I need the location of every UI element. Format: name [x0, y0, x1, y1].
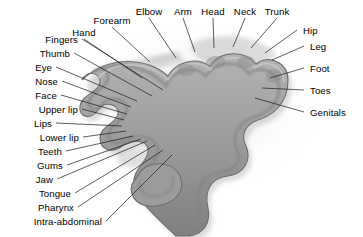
homunculus-figure: FingersThumbEyeNoseFaceUpper lipLipsLowe…: [0, 0, 363, 237]
label-jaw: Jaw: [36, 174, 53, 185]
leader-line: [106, 155, 172, 221]
label-gums: Gums: [37, 160, 63, 171]
label-arm: Arm: [174, 6, 192, 17]
leader-line: [78, 150, 163, 207]
label-hip: Hip: [303, 25, 318, 36]
leader-line: [83, 131, 126, 137]
leader-line: [265, 30, 297, 53]
leader-line: [233, 18, 245, 47]
label-lower-lip: Lower lip: [40, 132, 79, 143]
label-pharynx: Pharynx: [38, 202, 74, 213]
label-elbow: Elbow: [136, 6, 163, 17]
label-face: Face: [35, 90, 57, 101]
label-intra-abdominal: Intra-abdominal: [34, 216, 102, 227]
leader-line: [56, 123, 122, 126]
label-trunk: Trunk: [265, 6, 290, 17]
label-nose: Nose: [35, 76, 58, 87]
label-lips: Lips: [34, 118, 52, 129]
leader-line: [272, 46, 304, 60]
label-neck: Neck: [234, 6, 256, 17]
leader-line: [255, 98, 304, 112]
leader-line: [74, 53, 152, 96]
label-teeth: Teeth: [38, 146, 62, 157]
leader-line: [56, 67, 137, 101]
label-genitals: Genitals: [310, 107, 346, 118]
leader-line: [251, 18, 277, 48]
label-eye: Eye: [35, 62, 52, 73]
label-tongue: Tongue: [39, 188, 71, 199]
leader-line: [67, 139, 141, 165]
leader-line: [270, 68, 304, 78]
leader-line: [213, 18, 214, 48]
label-forearm: Forearm: [94, 15, 131, 26]
label-head: Head: [201, 6, 224, 17]
leader-line: [57, 141, 147, 179]
leader-line: [262, 88, 304, 90]
leader-line: [82, 109, 124, 120]
label-thumb: Thumb: [40, 48, 70, 59]
leader-line: [149, 18, 176, 58]
leader-line: [112, 27, 150, 62]
label-upper-lip: Upper lip: [39, 104, 78, 115]
leader-line: [75, 145, 155, 193]
label-hand: Hand: [72, 27, 95, 38]
label-foot: Foot: [310, 63, 330, 74]
label-toes: Toes: [310, 85, 331, 96]
leader-line: [183, 18, 195, 52]
leader-line: [84, 39, 142, 78]
label-leg: Leg: [310, 41, 326, 52]
